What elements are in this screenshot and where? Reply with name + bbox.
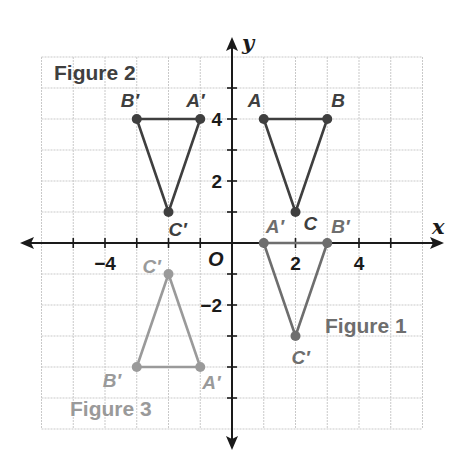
- figure-title-figure-3: Figure 3: [70, 397, 152, 420]
- vertex-point: [195, 362, 205, 372]
- origin-label: O: [208, 248, 224, 270]
- triangle-figure-2: A′B′C′: [121, 90, 206, 240]
- vertex-label: C: [304, 213, 318, 234]
- figures: ABCA′B′C′A′B′C′A′B′C′: [103, 90, 351, 393]
- vertex-point: [259, 114, 269, 124]
- y-tick-label: 4: [211, 109, 222, 130]
- vertex-label: C′: [292, 347, 312, 368]
- vertex-label: B′: [121, 90, 141, 111]
- vertex-label: A′: [185, 90, 206, 111]
- vertex-point: [259, 238, 269, 248]
- x-tick-label: 4: [354, 253, 365, 274]
- vertex-label: C′: [169, 219, 189, 240]
- vertex-point: [132, 114, 142, 124]
- vertex-point: [132, 362, 142, 372]
- vertex-label: A′: [201, 372, 222, 393]
- y-tick-label: 2: [211, 171, 222, 192]
- vertex-label: A′: [265, 216, 286, 237]
- axes: −42442−2xyO: [20, 30, 445, 450]
- figure-title-figure-2: Figure 2: [54, 61, 136, 84]
- vertex-point: [195, 114, 205, 124]
- vertex-label: B′: [103, 370, 123, 391]
- figure-title-figure-1: Figure 1: [325, 314, 407, 337]
- coordinate-plane: −42442−2xyO Figure 1Figure 2Figure 3 ABC…: [0, 0, 461, 462]
- vertex-label: B′: [331, 216, 351, 237]
- vertex-point: [322, 238, 332, 248]
- vertex-point: [164, 207, 174, 217]
- y-tick-label: −2: [200, 295, 222, 316]
- vertex-label: B: [331, 90, 345, 111]
- triangle-figure-3: A′B′C′: [103, 256, 222, 393]
- vertex-point: [291, 331, 301, 341]
- triangle-outline: [137, 274, 201, 367]
- vertex-point: [164, 269, 174, 279]
- vertex-label: C′: [143, 256, 163, 277]
- triangle-figure-1: A′B′C′: [259, 216, 351, 368]
- y-axis-label: y: [241, 30, 256, 55]
- figure-titles: Figure 1Figure 2Figure 3: [54, 61, 407, 420]
- vertex-label: A: [247, 90, 262, 111]
- x-tick-label: −4: [94, 253, 116, 274]
- x-axis-label: x: [431, 214, 445, 239]
- x-tick-label: 2: [290, 253, 301, 274]
- coordinate-plane-diagram: −42442−2xyO Figure 1Figure 2Figure 3 ABC…: [0, 0, 461, 462]
- vertex-point: [322, 114, 332, 124]
- vertex-point: [291, 207, 301, 217]
